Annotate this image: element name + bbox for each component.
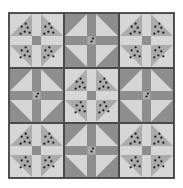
quilt-block-b <box>9 68 64 123</box>
quilt-block-a <box>119 123 174 178</box>
quilt-block-b <box>119 68 174 123</box>
quilt-diagram <box>9 13 174 178</box>
quilt-block-a <box>119 13 174 68</box>
quilt-block-b <box>64 13 119 68</box>
quilt-block-a <box>9 123 64 178</box>
quilt-block-a <box>64 68 119 123</box>
quilt-block-a <box>9 13 64 68</box>
quilt-block-b <box>64 123 119 178</box>
